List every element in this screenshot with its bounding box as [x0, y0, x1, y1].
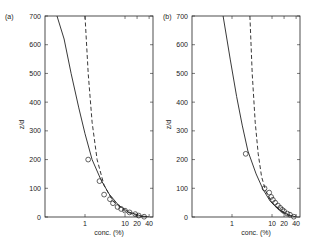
x-tick-label: 10 — [268, 220, 276, 227]
panel-label: (b) — [163, 13, 172, 21]
y-tick-label: 100 — [176, 185, 188, 192]
y-tick-label: 0 — [184, 214, 188, 221]
y-tick-label: 500 — [176, 70, 188, 77]
panel-label: (a) — [5, 13, 14, 21]
solid-curve — [223, 16, 296, 217]
data-point-marker — [102, 192, 107, 197]
x-tick-label: 40 — [145, 220, 153, 227]
x-axis-label: conc. (%) — [241, 229, 271, 237]
y-tick-label: 400 — [29, 99, 41, 106]
y-tick-label: 100 — [29, 185, 41, 192]
x-axis-label: conc. (%) — [94, 229, 124, 237]
y-tick-label: 500 — [29, 70, 41, 77]
x-tick-label: 20 — [280, 220, 288, 227]
data-point-marker — [243, 151, 248, 156]
chart-panel-b: 01002003004005006007001102040conc. (%)z/… — [163, 13, 300, 238]
x-tick-label: 1 — [83, 220, 87, 227]
y-tick-label: 600 — [176, 41, 188, 48]
y-tick-label: 400 — [176, 99, 188, 106]
y-tick-label: 300 — [29, 127, 41, 134]
y-tick-label: 700 — [29, 13, 41, 20]
y-tick-label: 300 — [176, 127, 188, 134]
y-axis-label: z/d — [18, 120, 25, 129]
y-tick-label: 600 — [29, 41, 41, 48]
x-tick-label: 40 — [292, 220, 300, 227]
axes-frame — [45, 16, 153, 217]
solid-curve — [57, 16, 149, 217]
y-tick-label: 0 — [37, 214, 41, 221]
axes-frame — [192, 16, 300, 217]
y-axis-label: z/d — [165, 120, 172, 129]
dashed-curve — [250, 16, 291, 216]
data-point-marker — [86, 157, 91, 162]
y-tick-label: 700 — [176, 13, 188, 20]
data-point-marker — [97, 179, 102, 184]
x-tick-label: 20 — [133, 220, 141, 227]
chart-figure: 01002003004005006007001102040conc. (%)z/… — [0, 0, 317, 252]
dashed-curve — [85, 16, 144, 217]
y-tick-label: 200 — [176, 156, 188, 163]
x-tick-label: 1 — [230, 220, 234, 227]
y-tick-label: 200 — [29, 156, 41, 163]
chart-panel-a: 01002003004005006007001102040conc. (%)z/… — [5, 13, 153, 238]
x-tick-label: 10 — [121, 220, 129, 227]
